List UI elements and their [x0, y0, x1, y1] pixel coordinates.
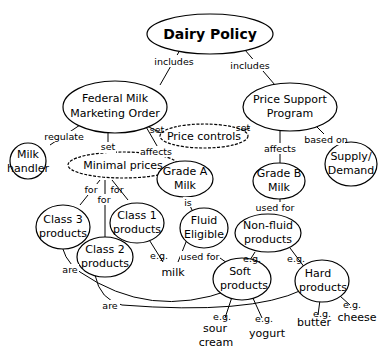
svg-text:Milk: Milk: [174, 179, 197, 192]
node-class-1-products: Class 1 products: [110, 203, 164, 243]
node-supply-demand: Supply/ Demand: [325, 142, 377, 186]
svg-text:are: are: [102, 300, 118, 311]
node-class-2-products: Class 2 products: [77, 237, 133, 277]
svg-text:e.g.: e.g.: [150, 250, 168, 261]
node-milk: milk: [161, 266, 185, 279]
svg-text:products: products: [220, 279, 268, 292]
node-non-fluid-products: Non-fluid products: [235, 214, 301, 252]
svg-text:e.g.: e.g.: [313, 308, 331, 319]
svg-text:Eligible: Eligible: [184, 228, 224, 241]
svg-text:Grade A: Grade A: [163, 165, 208, 178]
svg-text:for: for: [110, 184, 123, 195]
svg-text:Program: Program: [267, 107, 313, 120]
svg-text:Supply/: Supply/: [330, 150, 371, 163]
node-hard-products: Hard products: [295, 260, 349, 302]
svg-text:Grade B: Grade B: [257, 167, 302, 180]
node-grade-a-milk: Grade A Milk: [157, 161, 213, 197]
node-yogurt: yogurt: [249, 327, 286, 340]
node-milk-handler: Milk handler: [7, 143, 49, 179]
svg-text:products: products: [113, 223, 161, 236]
svg-text:set: set: [101, 141, 116, 152]
svg-text:includes: includes: [154, 56, 193, 67]
svg-text:Hard: Hard: [305, 267, 331, 280]
node-cheese: cheese: [337, 311, 376, 324]
svg-text:products: products: [39, 227, 87, 240]
svg-text:affects: affects: [264, 143, 296, 154]
svg-text:affects: affects: [140, 146, 172, 157]
svg-text:yogurt: yogurt: [249, 327, 286, 340]
svg-text:Soft: Soft: [229, 265, 251, 278]
svg-text:for: for: [84, 184, 97, 195]
svg-text:set: set: [236, 122, 251, 133]
svg-text:e.g.: e.g.: [255, 313, 273, 324]
svg-text:are: are: [62, 264, 78, 275]
node-grade-b-milk: Grade B Milk: [253, 163, 305, 199]
svg-text:cream: cream: [199, 336, 234, 349]
node-dairy-policy: Dairy Policy: [147, 14, 273, 54]
node-sour-cream: sour cream: [199, 322, 234, 349]
svg-text:Non-fluid: Non-fluid: [243, 219, 293, 232]
svg-text:Class 2: Class 2: [85, 243, 124, 256]
svg-text:products: products: [299, 281, 347, 294]
node-fluid-eligible: Fluid Eligible: [180, 208, 228, 248]
svg-text:handler: handler: [7, 162, 49, 175]
svg-text:regulate: regulate: [44, 131, 84, 142]
svg-text:used for: used for: [256, 202, 295, 213]
svg-text:Marketing Order: Marketing Order: [70, 107, 160, 120]
svg-text:e.g.: e.g.: [287, 253, 305, 264]
svg-text:Price Support: Price Support: [253, 93, 328, 106]
svg-text:sour: sour: [203, 322, 227, 335]
svg-text:Fluid: Fluid: [191, 214, 217, 227]
svg-text:is: is: [184, 197, 192, 208]
svg-text:for: for: [97, 194, 110, 205]
svg-text:Price controls: Price controls: [167, 130, 241, 143]
svg-text:products: products: [244, 233, 292, 246]
svg-text:e.g.: e.g.: [243, 253, 261, 264]
svg-text:products: products: [81, 257, 129, 270]
svg-text:e.g.: e.g.: [213, 311, 231, 322]
concept-map: Dairy Policy Federal Milk Marketing Orde…: [0, 0, 384, 356]
node-soft-products: Soft products: [213, 258, 271, 300]
svg-text:Milk: Milk: [17, 148, 40, 161]
svg-text:Dairy Policy: Dairy Policy: [163, 26, 257, 42]
svg-text:Milk: Milk: [268, 181, 291, 194]
svg-text:Federal Milk: Federal Milk: [82, 92, 149, 105]
node-price-support-program: Price Support Program: [243, 83, 337, 131]
svg-text:includes: includes: [230, 60, 269, 71]
svg-text:Minimal prices: Minimal prices: [83, 159, 163, 172]
svg-text:based on: based on: [304, 134, 348, 145]
svg-text:Class 1: Class 1: [117, 209, 156, 222]
svg-text:set: set: [150, 124, 165, 135]
svg-text:Demand: Demand: [328, 164, 375, 177]
svg-text:milk: milk: [161, 266, 185, 279]
svg-text:Class 3: Class 3: [43, 213, 82, 226]
node-class-3-products: Class 3 products: [36, 205, 90, 249]
svg-text:cheese: cheese: [337, 311, 376, 324]
svg-text:used for: used for: [181, 251, 220, 262]
svg-text:e.g.: e.g.: [343, 299, 361, 310]
